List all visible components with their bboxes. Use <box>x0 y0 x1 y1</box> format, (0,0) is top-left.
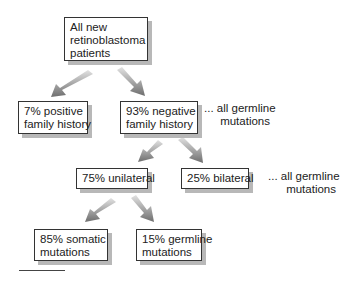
node-somatic-mutations: 85% somatic mutations <box>34 229 108 261</box>
node-text: 7% positive <box>24 105 82 118</box>
arrow-root-positive <box>51 70 93 97</box>
node-text: 15% germline <box>142 233 196 246</box>
footnote-rule <box>19 270 65 271</box>
node-text: 75% unilateral <box>82 172 142 185</box>
note-text: mutations <box>204 115 270 128</box>
arrow-negative-unilateral <box>138 140 163 162</box>
arrow-negative-bilateral <box>178 137 203 163</box>
arrow-unilateral-germline <box>131 195 154 222</box>
arrow-unilateral-somatic <box>85 198 116 222</box>
node-text: 93% negative <box>126 105 192 118</box>
arrow-root-negative <box>117 67 145 96</box>
note-germline-1: ... all germline mutations <box>204 102 270 128</box>
node-text: retinoblastoma <box>70 34 142 47</box>
node-text: 25% bilateral <box>187 172 243 185</box>
node-text: All new <box>70 21 142 34</box>
node-germline-mutations: 15% germline mutations <box>136 229 202 261</box>
node-unilateral: 75% unilateral <box>76 168 148 189</box>
node-all-patients: All new retinoblastoma patients <box>64 17 148 61</box>
diagram-canvas: All new retinoblastoma patients 7% posit… <box>0 0 346 287</box>
note-text: ... all germline <box>268 170 336 183</box>
node-text: family history <box>126 118 192 131</box>
note-text: ... all germline <box>204 102 270 115</box>
node-text: mutations <box>40 246 102 259</box>
node-text: mutations <box>142 246 196 259</box>
node-text: family history <box>24 118 82 131</box>
note-germline-2: ... all germline mutations <box>268 170 336 196</box>
note-text: mutations <box>268 183 336 196</box>
node-positive-family-history: 7% positive family history <box>18 101 88 134</box>
node-text: patients <box>70 47 142 60</box>
node-text: 85% somatic <box>40 233 102 246</box>
node-negative-family-history: 93% negative family history <box>120 101 198 134</box>
node-bilateral: 25% bilateral <box>181 168 249 189</box>
